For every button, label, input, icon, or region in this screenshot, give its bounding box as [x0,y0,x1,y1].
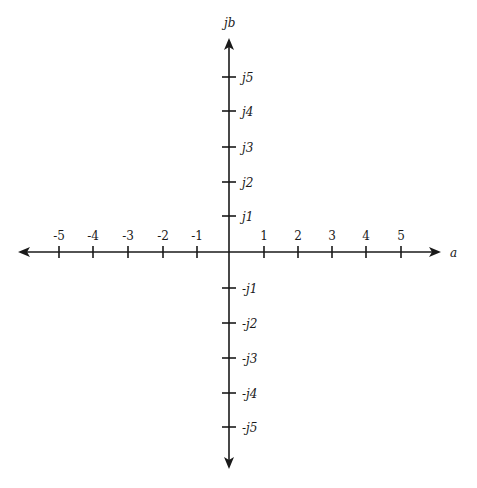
imaginary-axis-label: jb [221,16,235,30]
real-axis-tick-label: -1 [191,229,203,243]
imaginary-axis-tick-label: -j2 [242,317,257,331]
real-axis-tick-label: 3 [328,229,336,243]
imaginary-axis-tick-label: j5 [239,71,253,85]
complex-plane-diagram: -5-4-3-2-112345 j5j4j3j2j1-j1-j2-j3-j4-j… [0,0,477,488]
real-axis-tick-label: 5 [397,229,405,243]
real-axis-tick-label: 4 [362,229,370,243]
imaginary-axis-tick-label: -j5 [242,421,257,435]
real-axis-tick-label: -2 [157,229,169,243]
imaginary-axis-tick-label: -j1 [242,282,257,296]
real-axis-tick-label: -4 [87,229,99,243]
imaginary-axis-tick-label: -j4 [242,387,257,401]
imaginary-axis-tick-label: -j3 [242,352,258,366]
real-axis-tick-label: -5 [53,229,65,243]
real-axis-tick-label: 2 [294,229,302,243]
real-axis-label: a [450,246,457,260]
real-axis-tick-label: -3 [122,229,134,243]
imaginary-axis-tick-label: j4 [239,105,253,119]
imaginary-axis-tick-label: j2 [239,176,253,190]
imaginary-axis-tick-label: j1 [239,210,253,224]
imaginary-axis-tick-label: j3 [239,141,254,155]
real-axis-tick-label: 1 [260,229,268,243]
